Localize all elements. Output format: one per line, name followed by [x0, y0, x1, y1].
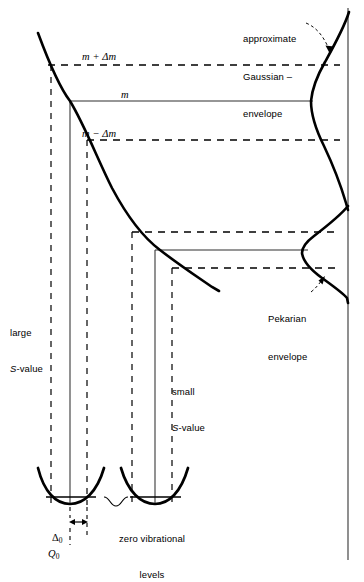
gaussian-pointer-arrow [306, 23, 329, 49]
zero-vibrational-line2: levels [119, 569, 185, 581]
large-s-value-label: large S-value [10, 303, 43, 399]
delta-zero-symbol: Δ [52, 532, 59, 543]
gaussian-envelope-label-line3: envelope [243, 108, 296, 121]
delta-zero-arrowhead-left [69, 519, 75, 525]
zero-vibrational-levels-label: zero vibrational levels [119, 509, 185, 582]
zero-vibrational-brace [104, 497, 128, 506]
q-zero-symbol: Q [48, 548, 56, 559]
zero-vibrational-line1: zero vibrational [119, 533, 185, 545]
gaussian-envelope-label-line1: approximate [243, 33, 296, 46]
delta-zero-subscript: 0 [59, 536, 63, 545]
q-zero-label: Q0 [48, 548, 60, 563]
level-label-m-minus-delta-m: m − Δm [82, 128, 116, 140]
large-s-value-line1: large [10, 327, 43, 339]
small-s-value-label: small S-value [172, 362, 205, 458]
gaussian-envelope-label: approximate Gaussian – envelope [243, 8, 296, 146]
pekarian-envelope-label: Pekarian envelope [268, 288, 307, 388]
small-s-value-line1: small [172, 386, 205, 398]
pekarian-envelope-label-line1: Pekarian [268, 313, 307, 326]
q-zero-subscript: 0 [56, 552, 60, 561]
gaussian-envelope-label-line2: Gaussian – [243, 71, 296, 84]
transition-energy-curve [38, 33, 219, 291]
gaussian-envelope-curve [311, 12, 349, 210]
pekarian-envelope-curve [302, 206, 348, 303]
delta-zero-label: Δ0 [52, 532, 63, 547]
ground-state-potential-well [38, 468, 104, 504]
level-label-m: m [121, 89, 129, 101]
small-s-value-line2: S-value [172, 422, 205, 434]
pekarian-envelope-label-line2: envelope [268, 351, 307, 364]
large-s-value-line2: S-value [10, 363, 43, 375]
level-label-m-plus-delta-m: m + Δm [82, 51, 116, 63]
